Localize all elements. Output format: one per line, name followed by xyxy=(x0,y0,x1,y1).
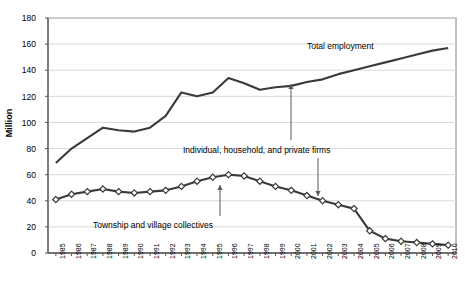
x-tick-label-2001: 2001 xyxy=(310,243,317,259)
x-tick-label-2000: 2000 xyxy=(294,243,301,259)
chart-container: Million 180 160 140 120 100 80 60 40 20 … xyxy=(0,0,465,296)
annotation-private-firms: Individual, household, and private firms xyxy=(183,145,330,155)
x-tick-label-1986: 1986 xyxy=(75,243,82,259)
x-tick-label-1999: 1999 xyxy=(279,243,286,259)
x-tick-label-2003: 2003 xyxy=(341,243,348,259)
x-tick-label-2009: 2009 xyxy=(435,243,442,259)
x-tick-label-1997: 1997 xyxy=(247,243,254,259)
x-tick-label-2007: 2007 xyxy=(404,243,411,259)
x-tick-label-2005: 2005 xyxy=(373,243,380,259)
x-tick-label-1992: 1992 xyxy=(169,243,176,259)
annotation-total-employment: Total employment xyxy=(307,41,374,51)
x-tick-label-1995: 1995 xyxy=(216,243,223,259)
x-tick-label-1988: 1988 xyxy=(106,243,113,259)
x-tick-label-2002: 2002 xyxy=(326,243,333,259)
x-tick-label-1996: 1996 xyxy=(231,243,238,259)
x-tick-label-1989: 1989 xyxy=(122,243,129,259)
plot-border xyxy=(48,18,456,253)
x-tick-label-1987: 1987 xyxy=(90,243,97,259)
x-tick-label-2010: 2010 xyxy=(451,243,458,259)
x-tick-label-1994: 1994 xyxy=(200,243,207,259)
x-tick-label-2008: 2008 xyxy=(420,243,427,259)
x-tick-label-1998: 1998 xyxy=(263,243,270,259)
x-tick-label-1991: 1991 xyxy=(153,243,160,259)
x-tick-label-1985: 1985 xyxy=(59,243,66,259)
x-tick-label-2006: 2006 xyxy=(388,243,395,259)
annotation-tve: Township and village collectives xyxy=(93,220,213,230)
x-tick-label-1990: 1990 xyxy=(137,243,144,259)
x-tick-label-2004: 2004 xyxy=(357,243,364,259)
x-tick-label-1993: 1993 xyxy=(184,243,191,259)
